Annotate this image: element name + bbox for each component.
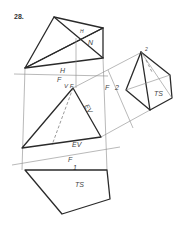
figure-number: 28. — [14, 13, 24, 20]
svg-text:H: H — [60, 67, 66, 74]
svg-text:2: 2 — [114, 84, 119, 91]
svg-text:F: F — [105, 84, 110, 91]
top-view: H N — [25, 17, 103, 88]
svg-text:H: H — [80, 28, 84, 34]
svg-text:TS: TS — [154, 90, 163, 97]
svg-text:2: 2 — [144, 46, 148, 52]
svg-text:TS: TS — [75, 181, 84, 188]
descriptive-geometry-drawing: 28. H N H F V F EV EV F 2 — [0, 0, 191, 230]
front-view: V F EV EV — [22, 83, 101, 148]
fold-line-HF: H F — [14, 67, 108, 83]
svg-text:V F: V F — [64, 83, 74, 89]
svg-text:EV: EV — [83, 103, 94, 116]
svg-text:F: F — [57, 76, 62, 83]
fold-line-F1: F 1 — [12, 147, 120, 171]
svg-text:N: N — [88, 39, 94, 46]
svg-text:EV: EV — [72, 141, 83, 148]
true-shape-view: TS — [25, 170, 110, 214]
fold-line-F2: F 2 — [105, 70, 133, 128]
auxiliary-view-2: 2 TS — [126, 46, 172, 110]
svg-text:F: F — [68, 156, 73, 163]
